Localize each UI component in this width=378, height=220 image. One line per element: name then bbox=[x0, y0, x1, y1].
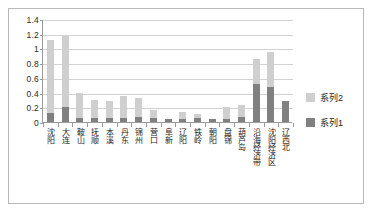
bar-segment-series2 bbox=[91, 100, 98, 118]
x-tick-mark bbox=[117, 123, 118, 127]
x-axis-category-labels: 沈阳大连鞍山抚顺本溪丹东锦州营口阜新辽阳铁岭朝阳盘锦葫芦岛沿海经济带沈阳经济区辽… bbox=[42, 128, 292, 203]
x-tick-mark bbox=[87, 123, 88, 127]
y-tick-mark bbox=[40, 20, 43, 21]
bar-segment-series2 bbox=[62, 36, 69, 107]
bar-segment-series1 bbox=[253, 84, 260, 122]
bar-segment-series2 bbox=[238, 105, 245, 117]
x-category-label: 抚顺 bbox=[89, 128, 98, 143]
bar-segment-series2 bbox=[267, 52, 274, 87]
y-tick-mark bbox=[40, 94, 43, 95]
x-category-label: 大连 bbox=[60, 128, 69, 143]
chart-legend: 系列2 系列1 bbox=[306, 91, 364, 141]
x-tick-mark bbox=[58, 123, 59, 127]
bar-group[interactable] bbox=[253, 59, 260, 122]
x-tick-mark bbox=[161, 123, 162, 127]
y-axis-tick-labels: 1.41.210.80.60.40.20 bbox=[9, 20, 39, 123]
legend-item-series2[interactable]: 系列2 bbox=[306, 91, 364, 104]
x-tick-mark bbox=[131, 123, 132, 127]
bar-group[interactable] bbox=[282, 101, 289, 122]
bar-segment-series2 bbox=[223, 107, 230, 119]
bar-group[interactable] bbox=[238, 105, 245, 122]
y-tick-mark bbox=[40, 79, 43, 80]
bar-group[interactable] bbox=[106, 101, 113, 122]
x-tick-mark bbox=[43, 123, 44, 127]
y-tick-mark bbox=[40, 64, 43, 65]
bar-segment-series1 bbox=[179, 119, 186, 122]
plot-area bbox=[42, 20, 292, 123]
y-tick-mark bbox=[40, 108, 43, 109]
x-tick-mark bbox=[102, 123, 103, 127]
y-tick-label: 1.4 bbox=[27, 15, 39, 25]
legend-label-series1: 系列1 bbox=[320, 116, 343, 129]
x-category-label: 葫芦岛 bbox=[236, 128, 245, 151]
x-category-label: 阜新 bbox=[163, 128, 172, 143]
bar-segment-series2 bbox=[106, 101, 113, 118]
gridline bbox=[43, 20, 293, 21]
y-tick-label: 1.2 bbox=[27, 30, 39, 40]
x-category-label: 丹东 bbox=[119, 128, 128, 143]
bar-segment-series1 bbox=[76, 118, 83, 122]
x-category-label: 营口 bbox=[148, 128, 157, 143]
x-tick-mark bbox=[293, 123, 294, 127]
bar-group[interactable] bbox=[165, 119, 172, 122]
x-category-label: 沈阳 bbox=[45, 128, 54, 143]
y-tick-label: 0.4 bbox=[27, 89, 39, 99]
bar-segment-series1 bbox=[194, 118, 201, 122]
bar-segment-series2 bbox=[150, 110, 157, 118]
bar-segment-series1 bbox=[209, 119, 216, 122]
bar-segment-series1 bbox=[223, 119, 230, 122]
bar-group[interactable] bbox=[194, 114, 201, 122]
bar-segment-series1 bbox=[91, 118, 98, 122]
bar-segment-series2 bbox=[135, 98, 142, 116]
x-tick-mark bbox=[146, 123, 147, 127]
bar-group[interactable] bbox=[91, 100, 98, 122]
x-tick-mark bbox=[175, 123, 176, 127]
y-tick-mark bbox=[40, 49, 43, 50]
y-tick-label: 0.6 bbox=[27, 74, 39, 84]
legend-swatch-series2-icon bbox=[306, 93, 315, 102]
bar-segment-series1 bbox=[150, 118, 157, 122]
bar-segment-series2 bbox=[120, 96, 127, 118]
bar-segment-series2 bbox=[253, 59, 260, 84]
x-tick-mark bbox=[264, 123, 265, 127]
bar-group[interactable] bbox=[76, 93, 83, 122]
bar-segment-series2 bbox=[179, 112, 186, 119]
bar-segment-series1 bbox=[62, 107, 69, 122]
legend-item-series1[interactable]: 系列1 bbox=[306, 116, 364, 129]
x-category-label: 辽西北 bbox=[280, 128, 289, 151]
x-category-label: 辽阳 bbox=[177, 128, 186, 143]
bar-group[interactable] bbox=[209, 119, 216, 122]
x-category-label: 沿海经济带 bbox=[251, 128, 260, 166]
bar-group[interactable] bbox=[120, 96, 127, 122]
bar-group[interactable] bbox=[223, 107, 230, 122]
x-category-label: 本溪 bbox=[104, 128, 113, 143]
x-category-label: 鞍山 bbox=[75, 128, 84, 143]
x-tick-mark bbox=[234, 123, 235, 127]
gridline bbox=[43, 49, 293, 50]
bar-segment-series1 bbox=[120, 118, 127, 122]
chart-frame: 1.41.210.80.60.40.20 沈阳大连鞍山抚顺本溪丹东锦州营口阜新辽… bbox=[8, 8, 364, 204]
x-tick-mark bbox=[205, 123, 206, 127]
x-category-label: 锦州 bbox=[133, 128, 142, 143]
bar-group[interactable] bbox=[135, 98, 142, 122]
bar-group[interactable] bbox=[150, 110, 157, 122]
gridline bbox=[43, 35, 293, 36]
x-tick-mark bbox=[249, 123, 250, 127]
bar-segment-series1 bbox=[47, 113, 54, 122]
y-tick-label: 0 bbox=[34, 118, 39, 128]
bar-group[interactable] bbox=[179, 112, 186, 122]
legend-label-series2: 系列2 bbox=[320, 91, 343, 104]
bar-group[interactable] bbox=[267, 52, 274, 122]
y-tick-label: 0.2 bbox=[27, 103, 39, 113]
bar-segment-series1 bbox=[135, 117, 142, 122]
x-category-label: 盘锦 bbox=[222, 128, 231, 143]
bar-segment-series1 bbox=[282, 101, 289, 122]
bar-segment-series1 bbox=[267, 87, 274, 122]
y-tick-label: 0.8 bbox=[27, 59, 39, 69]
x-tick-mark bbox=[278, 123, 279, 127]
x-category-label: 铁岭 bbox=[192, 128, 201, 143]
x-tick-mark bbox=[72, 123, 73, 127]
bar-group[interactable] bbox=[62, 36, 69, 122]
bar-group[interactable] bbox=[47, 40, 54, 122]
x-category-label: 沈阳经济区 bbox=[266, 128, 275, 166]
